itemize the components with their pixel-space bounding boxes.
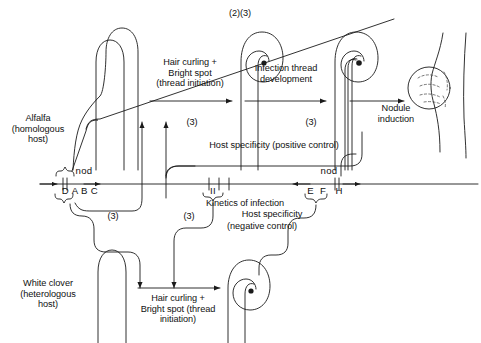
label-top-refs: (2)(3): [229, 8, 251, 19]
label-ref-3a: (3): [186, 117, 197, 128]
label-ref-3c: (3): [107, 211, 118, 222]
right-operon-genes: E F H: [307, 186, 343, 197]
connector-right-cluster-up: [341, 154, 356, 176]
alfalfa-root-hair-straight: [73, 28, 138, 170]
nodule-internal-marks: [418, 72, 447, 108]
label-clover-host: White clover (heterologous host): [20, 278, 76, 310]
bacterium-dot-3: [248, 288, 253, 293]
label-top-step1: Hair curling + Bright spot (thread initi…: [156, 57, 223, 89]
label-positive-control: Host specificity (positive control): [209, 140, 338, 151]
middle-operon-label: II: [210, 186, 216, 197]
label-bottom-step1: Hair curling + Bright spot (thread initi…: [141, 293, 216, 325]
gene-map-line: [40, 178, 478, 190]
label-kinetics: Kinetics of infection: [206, 198, 284, 209]
label-top-step2: Infection thread development: [255, 63, 318, 84]
left-operon-genes: D A B C: [62, 186, 98, 197]
nodule-on-root: [408, 33, 466, 158]
label-host-specificity: Host specificity: [242, 209, 302, 220]
left-operon-label: nod: [75, 166, 92, 177]
label-ref-3b: (3): [305, 117, 316, 128]
label-ref-3d: (3): [183, 211, 194, 222]
right-operon-label: nod: [320, 166, 337, 177]
diagram-canvas: (2)(3) Alfalfa (homologous host) Hair cu…: [0, 0, 481, 343]
label-alfalfa-host: Alfalfa (homologous host): [12, 113, 65, 145]
bacterium-dot-2: [356, 60, 362, 66]
label-top-step3: Nodule induction: [378, 103, 414, 124]
label-negative-control: (negative control): [227, 221, 297, 232]
clover-curled-root-hair: [228, 260, 270, 343]
clover-root-hair-straight: [98, 250, 126, 343]
